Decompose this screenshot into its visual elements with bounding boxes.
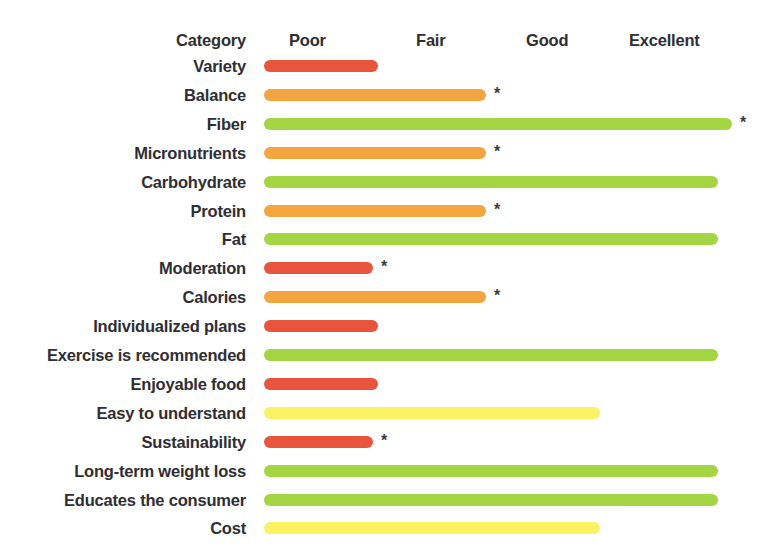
rating-bar [264,378,378,390]
table-row: Long-term weight loss [0,460,763,482]
row-label-fiber: Fiber [207,113,246,135]
rating-chart: Category Poor Fair Good Excellent Variet… [0,0,763,548]
rating-bar [264,118,732,130]
rating-bar [264,494,718,506]
table-row: Easy to understand [0,402,763,424]
row-label-moderation: Moderation [159,257,246,279]
asterisk-marker: * [494,285,500,307]
row-label-balance: Balance [184,84,246,106]
row-label-exercise-is-recommended: Exercise is recommended [47,344,246,366]
row-label-individualized-plans: Individualized plans [93,315,246,337]
bar-track: * [264,286,763,308]
table-row: Sustainability* [0,431,763,453]
bar-track: * [264,200,763,222]
row-label-educates-the-consumer: Educates the consumer [64,489,246,511]
rating-bar [264,233,718,245]
row-label-cost: Cost [210,517,246,539]
row-label-fat: Fat [222,228,246,250]
rating-bar [264,60,378,72]
table-row: Fiber* [0,113,763,135]
table-row: Protein* [0,200,763,222]
asterisk-marker: * [494,199,500,221]
column-header-category: Category [176,30,246,50]
bar-track: * [264,431,763,453]
asterisk-marker: * [740,112,746,134]
row-label-easy-to-understand: Easy to understand [96,402,246,424]
table-row: Moderation* [0,257,763,279]
table-row: Cost [0,517,763,539]
row-label-enjoyable-food: Enjoyable food [131,373,246,395]
table-row: Variety [0,55,763,77]
bar-track: * [264,142,763,164]
table-row: Calories* [0,286,763,308]
rating-bar [264,205,486,217]
scale-label-good: Good [526,30,568,50]
row-label-calories: Calories [182,286,246,308]
bar-track: * [264,84,763,106]
bar-track [264,171,763,193]
asterisk-marker: * [494,83,500,105]
rating-bar [264,176,718,188]
table-row: Micronutrients* [0,142,763,164]
bar-track [264,373,763,395]
scale-label-poor: Poor [289,30,326,50]
bar-track [264,489,763,511]
rating-bar [264,262,373,274]
row-label-sustainability: Sustainability [142,431,246,453]
rating-bar [264,89,486,101]
asterisk-marker: * [494,141,500,163]
rating-bar [264,465,718,477]
table-row: Fat [0,228,763,250]
rating-bar [264,522,600,534]
asterisk-marker: * [381,430,387,452]
table-row: Individualized plans [0,315,763,337]
bar-track [264,402,763,424]
bar-track [264,315,763,337]
bar-track [264,228,763,250]
rating-bar [264,291,486,303]
asterisk-marker: * [381,256,387,278]
table-row: Educates the consumer [0,489,763,511]
rating-bar [264,436,373,448]
table-row: Carbohydrate [0,171,763,193]
row-label-carbohydrate: Carbohydrate [141,171,246,193]
rating-bar [264,407,600,419]
row-label-variety: Variety [193,55,246,77]
table-row: Exercise is recommended [0,344,763,366]
row-label-micronutrients: Micronutrients [134,142,246,164]
bar-track [264,460,763,482]
row-label-protein: Protein [191,200,246,222]
bar-track [264,517,763,539]
scale-label-fair: Fair [416,30,445,50]
table-row: Balance* [0,84,763,106]
rating-bar [264,147,486,159]
bar-track: * [264,113,763,135]
row-label-long-term-weight-loss: Long-term weight loss [74,460,246,482]
table-row: Enjoyable food [0,373,763,395]
bar-track: * [264,257,763,279]
rating-bar [264,349,718,361]
bar-track [264,55,763,77]
scale-header-row: Category Poor Fair Good Excellent [0,30,763,56]
bar-track [264,344,763,366]
rating-bar [264,320,378,332]
scale-label-excellent: Excellent [629,30,700,50]
